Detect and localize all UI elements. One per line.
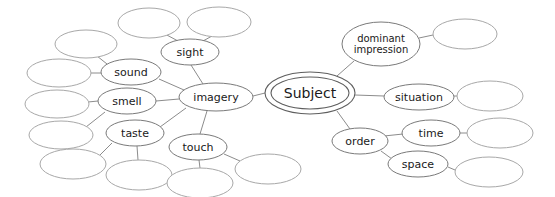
node-touch-child-1[interactable] [167, 168, 233, 197]
node-order[interactable]: order [332, 128, 388, 154]
ellipse-taste-child-3 [106, 160, 172, 190]
ellipse-sight-child-2 [187, 7, 251, 37]
node-touch-child-2[interactable] [235, 154, 301, 184]
node-sound[interactable]: sound [101, 59, 161, 85]
node-taste-child-2[interactable] [40, 149, 106, 179]
node-space[interactable]: space [388, 151, 448, 177]
ellipse-time-child-1 [467, 118, 533, 148]
ellipse-sight-child-1 [118, 8, 180, 38]
node-sound-child-1[interactable] [55, 30, 117, 58]
ellipse-sound-child-1 [55, 30, 117, 58]
node-time-child-1[interactable] [467, 118, 533, 148]
node-smell[interactable]: smell [98, 88, 156, 114]
ellipse-space-child-1 [455, 157, 523, 187]
node-label-sight: sight [176, 46, 204, 59]
node-taste-child-3[interactable] [106, 160, 172, 190]
ellipse-taste-child-1 [29, 121, 93, 149]
node-label-situation: situation [395, 91, 443, 104]
node-sight-child-1[interactable] [118, 8, 180, 38]
node-situation-child-1[interactable] [457, 81, 523, 111]
ellipse-sound-child-2 [27, 59, 91, 87]
ellipse-touch-child-1 [167, 168, 233, 197]
ellipse-dominant-child-1 [433, 19, 497, 49]
node-label-time: time [419, 127, 444, 140]
node-label-smell: smell [112, 95, 141, 108]
node-label-order: order [345, 135, 375, 148]
node-sight[interactable]: sight [161, 39, 219, 65]
node-label-space: space [402, 158, 435, 171]
node-sound-child-2[interactable] [27, 59, 91, 87]
node-subject[interactable]: Subject [265, 72, 355, 114]
node-situation[interactable]: situation [384, 84, 454, 110]
node-smell-child-1[interactable] [25, 90, 89, 118]
node-dominant-child-1[interactable] [433, 19, 497, 49]
node-space-child-1[interactable] [455, 157, 523, 187]
node-dominant-impression[interactable]: dominantimpression [342, 22, 420, 66]
node-label-taste: taste [121, 127, 149, 140]
node-imagery[interactable]: imagery [179, 83, 253, 111]
node-time[interactable]: time [402, 120, 460, 146]
node-label-touch: touch [182, 141, 213, 154]
node-label-dominant-impression: dominantimpression [354, 33, 409, 56]
ellipse-situation-child-1 [457, 81, 523, 111]
ellipse-smell-child-1 [25, 90, 89, 118]
ellipse-touch-child-2 [235, 154, 301, 184]
node-label-imagery: imagery [193, 91, 239, 104]
node-label-sound: sound [114, 66, 147, 79]
node-taste-child-1[interactable] [29, 121, 93, 149]
node-taste[interactable]: taste [106, 120, 164, 146]
node-touch[interactable]: touch [169, 134, 227, 160]
node-sight-child-2[interactable] [187, 7, 251, 37]
ellipse-taste-child-2 [40, 149, 106, 179]
node-label-subject: Subject [284, 85, 337, 101]
mind-map-diagram: Subjectimagerysightsoundsmelltastetouchd… [0, 0, 555, 197]
